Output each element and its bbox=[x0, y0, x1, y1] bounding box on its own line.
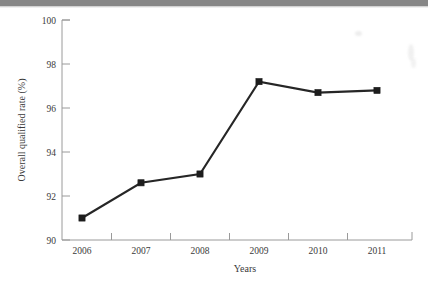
series-line bbox=[82, 82, 377, 218]
y-tick-label: 94 bbox=[47, 148, 57, 158]
x-axis-title: Years bbox=[234, 263, 256, 274]
y-tick-label: 96 bbox=[47, 104, 57, 114]
x-tick-label: 2006 bbox=[73, 246, 92, 256]
y-tick-label: 98 bbox=[47, 60, 57, 70]
line-chart: 90 92 94 96 98 100 2006 2007 2008 2009 bbox=[0, 0, 428, 282]
data-point-marker: 2006: 91 bbox=[79, 215, 85, 221]
y-axis-tick-labels: 90 92 94 96 98 100 bbox=[42, 16, 57, 246]
y-tick-label: 92 bbox=[47, 192, 57, 202]
data-point-marker: 2010: 96.7 bbox=[315, 90, 321, 96]
series-markers: 2006: 912007: 92.62008: 932009: 97.22010… bbox=[79, 79, 380, 222]
chart-canvas: 90 92 94 96 98 100 2006 2007 2008 2009 bbox=[0, 0, 428, 282]
y-tick-label: 90 bbox=[47, 236, 57, 246]
axis-frame bbox=[62, 20, 412, 240]
x-tick-label: 2009 bbox=[250, 246, 269, 256]
data-point-marker: 2007: 92.6 bbox=[138, 180, 144, 186]
x-axis-ticks bbox=[112, 233, 348, 240]
x-tick-label: 2010 bbox=[309, 246, 328, 256]
x-axis-tick-labels: 2006 2007 2008 2009 2010 2011 bbox=[73, 246, 387, 256]
y-axis-ticks bbox=[62, 20, 70, 240]
data-point-marker: 2011: 96.8 bbox=[374, 87, 380, 93]
figure-page: 90 92 94 96 98 100 2006 2007 2008 2009 bbox=[0, 0, 428, 282]
x-tick-label: 2011 bbox=[368, 246, 387, 256]
data-point-marker: 2009: 97.2 bbox=[256, 79, 262, 85]
y-axis-title: Overall qualified rate (%) bbox=[16, 78, 28, 181]
x-tick-label: 2007 bbox=[132, 246, 151, 256]
x-tick-label: 2008 bbox=[191, 246, 210, 256]
y-tick-label: 100 bbox=[42, 16, 57, 26]
data-point-marker: 2008: 93 bbox=[197, 171, 203, 177]
